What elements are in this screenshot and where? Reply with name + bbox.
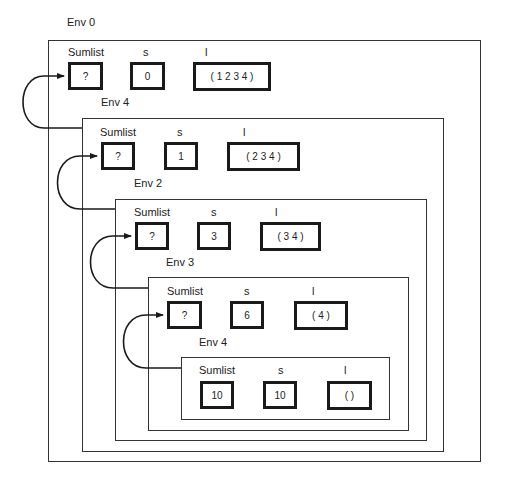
- sumlist-value-box: ?: [101, 142, 135, 170]
- sumlist-value-box: ?: [68, 62, 103, 90]
- var-label-l: l: [312, 285, 314, 297]
- var-label-s: s: [278, 364, 284, 376]
- s-value-box: 3: [197, 222, 231, 250]
- sumlist-value-box: ?: [135, 222, 169, 250]
- s-value-box: 1: [164, 142, 198, 170]
- s-value-box: 6: [230, 301, 264, 329]
- var-label-l: l: [205, 46, 207, 58]
- env-label-1: Env 4: [101, 96, 129, 108]
- var-label-sumlist: Sumlist: [167, 285, 203, 297]
- var-label-sumlist: Sumlist: [100, 126, 136, 138]
- l-value-box: ( ): [327, 381, 372, 410]
- env-label-4: Env 4: [199, 336, 227, 348]
- env-label-0: Env 0: [67, 16, 95, 28]
- var-label-s: s: [211, 206, 217, 218]
- s-value-box: 0: [130, 62, 165, 90]
- sumlist-value-box: 10: [200, 381, 234, 409]
- var-label-sumlist: Sumlist: [199, 364, 235, 376]
- var-label-s: s: [143, 46, 149, 58]
- var-label-s: s: [177, 126, 183, 138]
- sumlist-value-box: ?: [167, 301, 202, 329]
- l-value-box: ( 4 ): [294, 301, 348, 330]
- s-value-box: 10: [263, 381, 297, 409]
- l-value-box: ( 1 2 3 4 ): [193, 62, 271, 91]
- var-label-l: l: [243, 126, 245, 138]
- l-value-box: ( 3 4 ): [260, 222, 321, 251]
- var-label-s: s: [244, 285, 250, 297]
- env-label-2: Env 2: [134, 177, 162, 189]
- var-label-sumlist: Sumlist: [134, 206, 170, 218]
- l-value-box: ( 2 3 4 ): [227, 142, 300, 171]
- env-label-3: Env 3: [166, 256, 194, 268]
- var-label-sumlist: Sumlist: [68, 46, 104, 58]
- var-label-l: l: [344, 364, 346, 376]
- var-label-l: l: [275, 206, 277, 218]
